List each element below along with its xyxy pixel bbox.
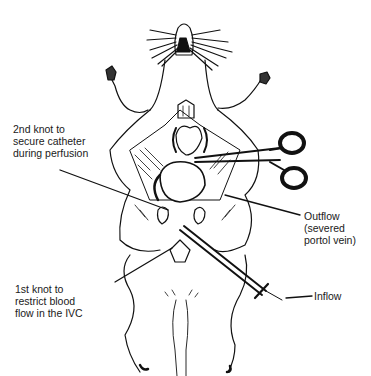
heart-icon (173, 100, 207, 155)
label-line: secure catheter (13, 135, 88, 147)
forelimb-right-icon (218, 72, 270, 108)
perfusion-diagram (0, 0, 371, 376)
label-line: 2nd knot to (13, 123, 88, 135)
kidney-icon (158, 207, 206, 224)
label-line: restrict blood (15, 295, 83, 307)
label-outflow: Outflow (severed portol vein) (304, 210, 356, 246)
forelimb-left-icon (106, 66, 148, 113)
label-line: Outflow (304, 210, 356, 222)
label-inflow: Inflow (314, 290, 341, 302)
hindlimb-left-icon (124, 255, 148, 372)
label-second-knot: 2nd knot to secure catheter during perfu… (13, 123, 88, 159)
label-line: during perfusion (13, 147, 88, 159)
catheter-icon (180, 226, 282, 300)
label-line: portol vein) (304, 234, 356, 246)
label-line: (severed (304, 222, 356, 234)
pelvis-icon (170, 240, 190, 262)
head-icon (147, 24, 232, 110)
tail-icon (165, 290, 198, 376)
forceps-icon (195, 133, 306, 188)
label-line: 1st knot to (15, 283, 83, 295)
label-line: Inflow (314, 290, 341, 302)
label-line: flow in the IVC (15, 307, 83, 319)
liver-icon (154, 162, 205, 202)
label-first-knot: 1st knot to restrict blood flow in the I… (15, 283, 83, 319)
